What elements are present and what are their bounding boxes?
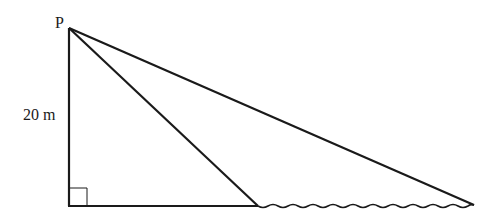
line-p-to-far-point (69, 28, 474, 205)
point-p-label: P (55, 14, 64, 32)
right-angle-marker (69, 188, 87, 206)
water-surface-wave (258, 205, 474, 208)
triangle-diagram (0, 0, 498, 224)
line-p-to-near-point (69, 28, 258, 206)
height-label: 20 m (23, 106, 55, 124)
diagram-canvas: P 20 m (0, 0, 498, 224)
